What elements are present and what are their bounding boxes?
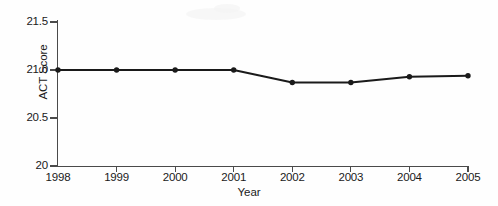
x-axis-tick-label: 2003 — [321, 171, 381, 183]
x-axis-tick-label: 1998 — [28, 171, 88, 183]
act-score-line-chart: 21.521.020.520 1998199920002001200220032… — [0, 0, 498, 206]
y-axis-tick — [50, 117, 57, 118]
y-axis-tick-label: 20 — [8, 159, 48, 171]
data-point — [348, 80, 353, 85]
act-score-line — [58, 70, 468, 82]
y-axis-tick — [50, 165, 57, 166]
x-axis-tick-label: 2000 — [145, 171, 205, 183]
x-axis-tick-label: 2002 — [262, 171, 322, 183]
x-axis-tick-label: 2004 — [379, 171, 439, 183]
act-score-markers — [55, 67, 470, 85]
y-axis-tick — [50, 21, 57, 22]
x-axis-title: Year — [0, 186, 498, 198]
x-axis-tick-label: 2005 — [438, 171, 498, 183]
data-point — [231, 67, 236, 72]
data-point — [290, 80, 295, 85]
y-axis-line — [57, 20, 58, 167]
data-point — [114, 67, 119, 72]
data-point — [465, 73, 470, 78]
data-point — [172, 67, 177, 72]
x-axis-tick-label: 1999 — [87, 171, 147, 183]
x-axis-tick-label: 2001 — [204, 171, 264, 183]
scan-artifact — [214, 4, 240, 13]
data-point — [407, 74, 412, 79]
y-axis-title: ACT Score — [37, 12, 49, 132]
y-axis-tick — [50, 69, 57, 70]
x-axis-line — [57, 166, 469, 167]
